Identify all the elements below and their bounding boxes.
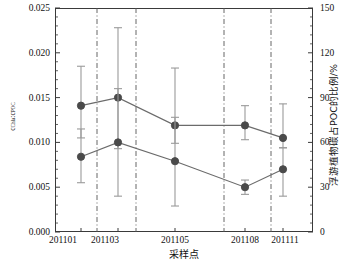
chart-figure: 0.025 0.020 0.015 0.010 0.005 0.000 150 … [0,0,347,265]
plot-area [0,0,347,265]
